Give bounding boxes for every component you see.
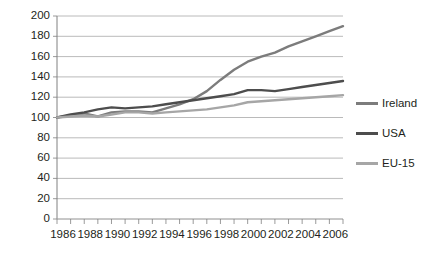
x-axis-tick-label: 2006	[317, 229, 353, 241]
y-axis-tick-label: 20	[8, 193, 50, 205]
y-axis-tick-label: 140	[8, 71, 50, 83]
line-chart: 020406080100120140160180200 198619881990…	[0, 0, 438, 258]
y-axis-tick-label: 0	[8, 213, 50, 225]
series-line-ireland	[57, 26, 343, 117]
y-axis-tick-label: 120	[8, 91, 50, 103]
y-axis-tick-label: 80	[8, 132, 50, 144]
y-axis-tick-label: 100	[8, 112, 50, 124]
y-axis-tick-label: 180	[8, 30, 50, 42]
y-axis-tick-label: 40	[8, 172, 50, 184]
legend-item[interactable]: EU-15	[356, 152, 438, 174]
legend-swatch-icon	[356, 102, 378, 105]
x-axis-ticks	[57, 219, 343, 224]
chart-legend: IrelandUSAEU-15	[356, 92, 438, 182]
y-axis-tick-label: 60	[8, 152, 50, 164]
data-series-group	[57, 26, 343, 117]
y-axis-tick-label: 160	[8, 51, 50, 63]
legend-label: Ireland	[382, 97, 417, 109]
gridlines	[57, 16, 343, 219]
legend-item[interactable]: USA	[356, 122, 438, 144]
legend-item[interactable]: Ireland	[356, 92, 438, 114]
y-axis-tick-label: 200	[8, 10, 50, 22]
legend-swatch-icon	[356, 162, 378, 165]
legend-label: EU-15	[382, 157, 415, 169]
legend-swatch-icon	[356, 132, 378, 135]
legend-label: USA	[382, 127, 406, 139]
